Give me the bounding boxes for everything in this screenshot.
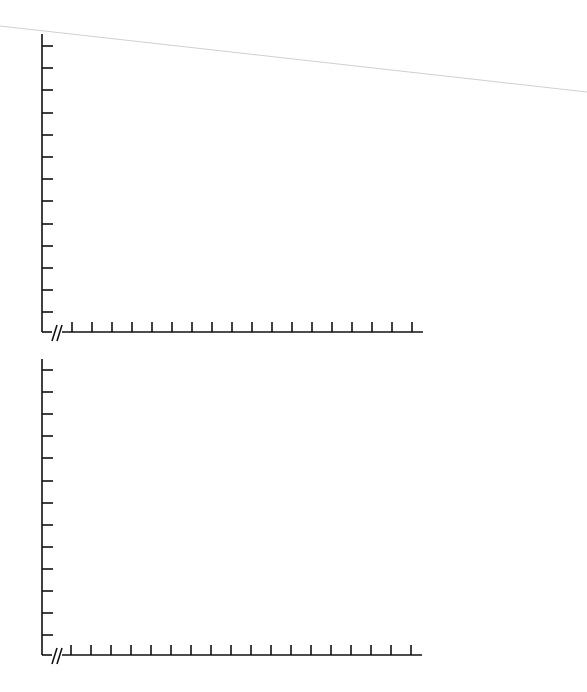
blank-chart-canvas <box>0 0 587 692</box>
chart-top-axes <box>42 34 423 341</box>
axis-break-mark <box>52 648 57 664</box>
axis-break-mark <box>57 648 62 664</box>
diagonal-guide-line <box>0 26 587 92</box>
chart-bottom-axes <box>42 359 422 664</box>
axis-break-mark <box>57 325 62 341</box>
axis-break-mark <box>52 325 57 341</box>
